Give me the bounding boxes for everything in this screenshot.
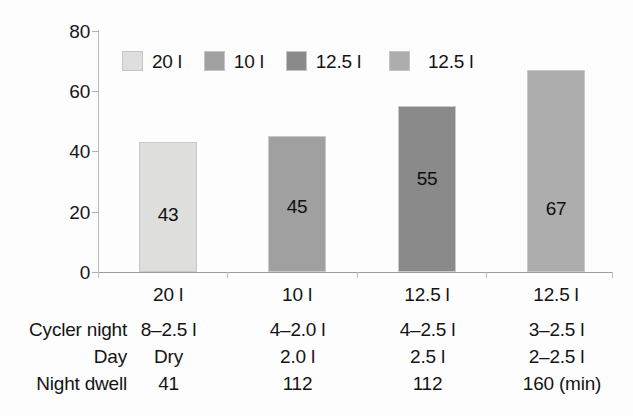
legend-label-3: 12.5 l xyxy=(428,52,473,71)
y-tick-80 xyxy=(92,31,99,32)
x-axis-line xyxy=(98,272,613,273)
bar-2[interactable]: 55 xyxy=(398,106,456,272)
y-tick-20 xyxy=(92,212,99,213)
table-cell-2-1: 112 xyxy=(260,372,335,396)
x-tick-0 xyxy=(98,272,99,278)
x-tick-2 xyxy=(357,272,358,278)
y-tick-label-80: 80 xyxy=(44,22,90,41)
legend-item-2[interactable]: 12.5 l xyxy=(286,51,361,71)
legend-item-1[interactable]: 10 l xyxy=(204,51,264,71)
chart-legend: 20 l 10 l 12.5 l 12.5 l xyxy=(122,48,495,74)
table-row-label-night-dwell: Night dwell xyxy=(0,372,127,396)
table-cell-0-1: 4–2.0 l xyxy=(260,318,335,342)
table-cell-0-0: 8–2.5 l xyxy=(131,318,206,342)
legend-item-0[interactable]: 20 l xyxy=(122,51,182,71)
bar-value-0: 43 xyxy=(140,205,196,224)
legend-item-3[interactable]: 12.5 l xyxy=(389,51,473,71)
table-cell-1-0: Dry xyxy=(131,345,206,369)
y-tick-label-40: 40 xyxy=(44,142,90,161)
legend-label-1: 10 l xyxy=(234,52,264,71)
legend-label-2: 12.5 l xyxy=(316,52,361,71)
category-label-1: 10 l xyxy=(267,285,327,304)
bar-value-1: 45 xyxy=(269,197,325,216)
y-tick-40 xyxy=(92,151,99,152)
legend-swatch-icon-3 xyxy=(389,51,410,71)
table-row-label-cycler-night: Cycler night xyxy=(0,318,127,342)
table-row: Day Dry 2.0 l 2.5 l 2–2.5 l xyxy=(0,345,633,372)
bar-value-2: 55 xyxy=(399,169,455,188)
legend-swatch-icon-0 xyxy=(122,51,143,71)
bar-value-3: 67 xyxy=(528,199,584,218)
table-cell-2-3: 160 (min) xyxy=(512,372,612,396)
y-tick-60 xyxy=(92,91,99,92)
x-tick-4 xyxy=(612,272,613,278)
bar-chart-figure: 80 60 40 20 0 43 45 55 xyxy=(0,0,633,416)
table-cell-2-0: 41 xyxy=(131,372,206,396)
parameter-table: Cycler night 8–2.5 l 4–2.0 l 4–2.5 l 3–2… xyxy=(0,318,633,399)
table-cell-0-3: 3–2.5 l xyxy=(519,318,594,342)
category-label-0: 20 l xyxy=(138,285,198,304)
table-cell-0-2: 4–2.5 l xyxy=(390,318,465,342)
table-cell-1-2: 2.5 l xyxy=(390,345,465,369)
y-tick-label-20: 20 xyxy=(44,203,90,222)
legend-swatch-icon-2 xyxy=(286,51,307,71)
table-row: Cycler night 8–2.5 l 4–2.0 l 4–2.5 l 3–2… xyxy=(0,318,633,345)
table-cell-2-2: 112 xyxy=(390,372,465,396)
y-tick-label-0: 0 xyxy=(44,263,90,282)
table-row-label-day: Day xyxy=(0,345,127,369)
table-row: Night dwell 41 112 112 160 (min) xyxy=(0,372,633,399)
legend-swatch-icon-1 xyxy=(204,51,225,71)
bar-3[interactable]: 67 xyxy=(527,70,585,272)
table-cell-1-3: 2–2.5 l xyxy=(519,345,594,369)
x-tick-1 xyxy=(227,272,228,278)
y-tick-label-60: 60 xyxy=(44,82,90,101)
x-tick-3 xyxy=(486,272,487,278)
legend-label-0: 20 l xyxy=(152,52,182,71)
category-label-2: 12.5 l xyxy=(397,285,457,304)
bar-0[interactable]: 43 xyxy=(139,142,197,272)
category-label-3: 12.5 l xyxy=(526,285,586,304)
table-cell-1-1: 2.0 l xyxy=(260,345,335,369)
bar-1[interactable]: 45 xyxy=(268,136,326,272)
plot-area: 80 60 40 20 0 43 45 55 xyxy=(0,0,633,290)
